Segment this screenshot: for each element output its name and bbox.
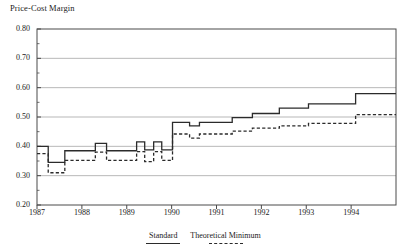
legend-label: Theoretical Minimum [190,231,260,241]
x-axis-label: 1994 [331,208,371,217]
series-line-standard [37,94,396,163]
y-axis-label: 0.50 [4,112,30,121]
y-axis-label: 0.80 [4,24,30,33]
x-axis-label: 1988 [62,208,102,217]
x-axis-label: 1987 [17,208,57,217]
x-axis-label: 1990 [152,208,192,217]
legend-swatch-solid [146,243,180,248]
series-line-theoretical-minimum [37,115,396,173]
y-axis-label: 0.40 [4,141,30,150]
legend-entry: Standard [146,231,180,248]
chart-container: Price-Cost Margin 0.800.700.600.500.400.… [0,0,407,252]
x-axis-label: 1991 [197,208,237,217]
y-axis-label: 0.60 [4,83,30,92]
x-axis-label: 1993 [286,208,326,217]
legend-swatch-dashed [209,243,243,248]
x-axis-label: 1992 [241,208,281,217]
y-axis-label: 0.30 [4,171,30,180]
legend-label: Standard [149,231,177,241]
y-axis-label: 0.70 [4,53,30,62]
chart-legend: StandardTheoretical Minimum [0,231,407,248]
legend-entry: Theoretical Minimum [190,231,260,248]
x-axis-label: 1989 [107,208,147,217]
